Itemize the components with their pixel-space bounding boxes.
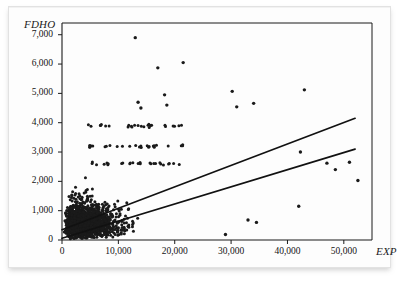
data-point [69,221,72,224]
data-point [127,124,130,127]
data-point [91,222,94,225]
y-tick-label: 5,000 [13,87,53,97]
data-point [63,231,66,234]
y-tick-label: 0 [13,234,53,244]
y-tick-label: 2,000 [13,175,53,185]
data-point [88,146,91,149]
data-point [85,189,88,192]
data-point [224,233,227,236]
data-point [231,90,234,93]
data-point [149,162,152,165]
data-point [96,212,99,215]
data-point [101,203,104,206]
y-tick-label: 4,000 [13,117,53,127]
scatter-chart: FDHO EXP 01,0002,0003,0004,0005,0006,000… [0,0,403,285]
data-point [90,203,93,206]
data-point [181,61,184,64]
data-point [133,124,136,127]
data-point [153,146,156,149]
data-point [103,163,106,166]
data-point [109,226,112,229]
data-point [101,227,104,230]
data-point [136,217,139,220]
data-point [167,144,170,147]
data-point [108,144,111,147]
data-point [163,93,166,96]
data-point [112,228,115,231]
data-point [131,220,134,223]
data-point [78,192,81,195]
x-tick-label: 50,000 [319,246,369,256]
data-point [83,224,86,227]
data-point [128,145,131,148]
data-point [178,163,181,166]
data-point [101,234,104,237]
data-point [106,230,109,233]
data-point [73,236,76,239]
data-point [82,214,85,217]
data-point [77,218,80,221]
data-point [74,186,77,189]
data-point [109,234,112,237]
data-point [150,124,153,127]
data-point [134,36,137,39]
data-point [115,215,118,218]
data-points [63,36,360,240]
data-point [104,232,107,235]
data-point [105,236,108,239]
data-point [77,214,80,217]
data-point [139,106,142,109]
plot-canvas [0,0,403,285]
x-tick-label: 20,000 [150,246,200,256]
data-point [235,105,238,108]
data-point [168,162,171,165]
data-point [106,163,109,166]
data-point [91,188,94,191]
data-point [74,193,77,196]
data-point [105,207,108,210]
data-point [82,211,85,214]
data-point [128,162,131,165]
data-point [137,162,140,165]
data-point [152,162,155,165]
data-point [137,124,140,127]
data-point [68,206,71,209]
data-point [162,163,165,166]
data-point [95,163,98,166]
data-point [98,206,101,209]
data-point [114,233,117,236]
data-point [90,125,93,128]
data-point [71,194,74,197]
data-point [116,200,119,203]
data-point [82,201,85,204]
data-point [131,161,134,164]
data-point [90,198,93,201]
data-point [91,145,94,148]
data-point [101,209,104,212]
data-point [115,212,118,215]
data-point [89,212,92,215]
data-point [105,227,108,230]
data-point [299,150,302,153]
data-point [108,219,111,222]
data-point [92,210,95,213]
data-point [97,203,100,206]
data-point [93,200,96,203]
data-point [114,205,117,208]
data-point [65,230,68,233]
data-point [103,218,106,221]
data-point [104,145,107,148]
data-point [132,230,135,233]
y-tick-label: 1,000 [13,205,53,215]
data-point [120,228,123,231]
data-point [106,216,109,219]
data-point [108,125,111,128]
data-point [74,200,77,203]
data-point [72,197,75,200]
data-point [75,209,78,212]
data-point [120,223,123,226]
data-point [81,237,84,240]
data-point [65,215,68,218]
data-point [64,211,67,214]
data-point [121,161,124,164]
